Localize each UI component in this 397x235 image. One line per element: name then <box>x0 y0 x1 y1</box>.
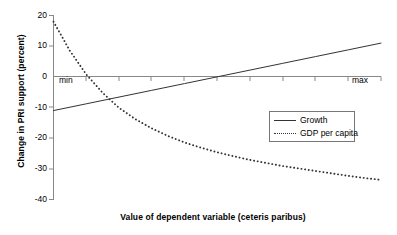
legend-entry-growth: Growth <box>270 114 356 128</box>
y-tick-label: -40 <box>21 195 47 204</box>
legend-swatch-dotted-line <box>274 133 296 135</box>
x-axis-title: Value of dependent variable (ceteris par… <box>53 212 373 222</box>
x-tick-label-min: min <box>59 76 73 85</box>
chart-legend: Growth GDP per capita <box>269 111 355 142</box>
x-axis-ticks <box>86 77 381 82</box>
series-layer <box>54 22 382 180</box>
y-tick-neg40: -40 <box>21 195 47 204</box>
x-tick-label-max: max <box>352 76 368 85</box>
chart-figure: 20 10 0 -10 -20 -30 -40 min max Change i… <box>0 0 397 235</box>
legend-swatch-solid-line <box>274 120 296 122</box>
y-axis-ticks <box>49 16 54 200</box>
legend-label: Growth <box>300 115 327 126</box>
legend-entry-gdp-per-capita: GDP per capita <box>270 127 356 141</box>
legend-label: GDP per capita <box>300 128 358 139</box>
y-axis-title: Change in PRI support (percent) <box>16 16 26 186</box>
